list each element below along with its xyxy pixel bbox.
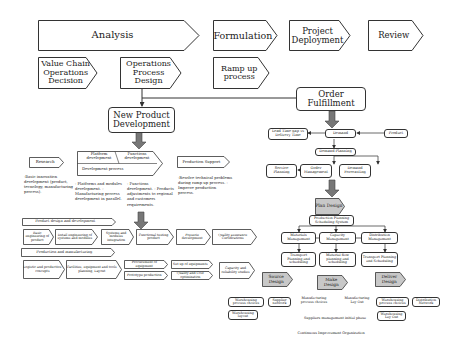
phase-analysis: Analysis — [38, 20, 200, 51]
phase-label: Review — [378, 31, 414, 40]
warehousing-layout-label: Warehousing Lay Out — [378, 313, 405, 320]
decision-label: Ramp up process — [213, 65, 270, 82]
lead-time-label: Lead Time gap vs Delivery Time — [269, 130, 307, 138]
continuous-improvement-text: Continuous Improvement Organization — [296, 331, 366, 335]
distribution-network-box: Distribution Network — [412, 297, 440, 307]
capacity-management-label: Capacity Management — [320, 234, 355, 241]
warehousing-layout-1-box: Warehousing layout — [228, 310, 258, 320]
platform-development-chevron: Platform development Functions developme… — [77, 151, 163, 176]
transport-planning-label: Transport Planning and Scheduling — [362, 256, 397, 263]
production-step-3: Procurement of equipment — [124, 260, 168, 269]
design-step-5: Preserie development — [176, 229, 211, 245]
demand-label: Demand — [333, 132, 348, 136]
functions-notes: - Functions development. - Products adju… — [127, 181, 174, 207]
production-header-label: Production and manufacturing — [36, 251, 99, 255]
design-step-label: Preserie development — [176, 234, 211, 241]
warehousing-process-choices-label: Warehousing process choices — [377, 299, 408, 306]
product-box: Product — [384, 129, 408, 138]
product-design-header: Product design and development — [22, 218, 116, 226]
design-step-6: Quality assurance Certifications — [212, 229, 257, 245]
production-step-label: Procurement of equipment — [124, 261, 168, 268]
capacity-management-box: Capacity Management — [319, 232, 356, 244]
research-chevron: Research — [29, 157, 64, 168]
material-flow-box: Material flow planning and scheduling — [319, 252, 356, 267]
make-design-chevron: Make Design — [317, 275, 348, 290]
production-step-2: Facilities, equipment and tools planning… — [66, 260, 122, 279]
design-step-label: Functional testing product — [136, 234, 174, 241]
distribution-network-label: Distribution Network — [413, 299, 439, 306]
decision-operations-process-design: Operations Process Design — [120, 57, 182, 89]
ofp-title: Order Fulfillment — [297, 90, 365, 108]
pps-box: Production Planning Scheduling System — [309, 215, 354, 226]
material-flow-label: Material flow planning and scheduling — [320, 254, 355, 265]
production-support-label: Production Support — [182, 160, 224, 164]
manufacturing-layout-text: Manufacturing Lay Out — [344, 297, 370, 305]
demand-planning-label: Demand Planning — [319, 150, 351, 154]
phase-label: Formulation — [213, 31, 277, 41]
decision-ramp-up: Ramp up process — [213, 57, 270, 89]
order-fulfillment-box: Order Fulfillment — [296, 87, 366, 111]
materials-management-label: Materials Management — [282, 234, 315, 241]
decision-value-chain: Value Chain Operations Decision — [38, 57, 98, 89]
design-step-1: Basic engineering of product — [23, 229, 54, 245]
supplier-network-box: Supplier network — [268, 297, 291, 307]
production-header: Production and manufacturing — [21, 248, 115, 257]
service-planning-box: Service Planning — [266, 164, 297, 178]
research-notes: -Basic innovation development (product, … — [24, 174, 74, 195]
product-label: Product — [389, 132, 403, 136]
production-step-label: Prototype production — [127, 274, 165, 277]
production-step-label: Capacity and reliability studies — [219, 267, 255, 274]
research-label: Research — [36, 160, 58, 164]
functions-development-label: Functions development — [121, 152, 153, 160]
design-step-3: Systems and modules integration — [101, 229, 134, 245]
distribution-management-label: Distribution Management — [362, 234, 397, 241]
platform-development-label: Platform development — [83, 152, 115, 160]
order-management-label: Order Management — [301, 167, 331, 175]
product-design-header-label: Product design and development — [35, 220, 103, 224]
service-planning-label: Service Planning — [267, 167, 296, 175]
deliver-design-chevron: Deliver Design — [375, 272, 406, 287]
production-support-notes: -Resolve technical problems during ramp … — [178, 175, 233, 196]
decision-label: Value Chain Operations Decision — [38, 60, 98, 85]
source-design-chevron: Source Design — [262, 272, 293, 287]
transport-planning-2-box: Transport Planning and Scheduling — [361, 252, 398, 267]
production-step-7: Capacity and reliability studies — [219, 262, 255, 279]
demand-forecasting-label: Demand Forecasting — [340, 167, 370, 175]
phase-label: Project Deployment — [289, 27, 351, 45]
materials-management-box: Materials Management — [281, 232, 316, 244]
transport-planning-1-box: Transport Planning and scheduling — [281, 252, 316, 267]
design-step-4: Functional testing product — [136, 229, 174, 245]
plan-design-label: Plan Design — [315, 204, 345, 209]
source-design-label: Source Design — [262, 275, 293, 284]
development-process-label: Development process — [82, 166, 142, 171]
production-step-label: Logistic and productive concepts — [23, 266, 65, 273]
phase-review: Review — [368, 20, 424, 51]
design-step-2: Detail engineering of systems and module… — [55, 229, 98, 245]
decision-label: Operations Process Design — [120, 60, 182, 85]
transport-planning-label: Transport Planning and scheduling — [282, 254, 315, 265]
warehousing-process-choices-label: Warehousing process choices — [229, 299, 263, 306]
warehousing-process-choices-1-box: Warehousing process choices — [228, 297, 264, 307]
new-product-development-box: New Product Development — [108, 107, 175, 133]
demand-box: Demand — [325, 129, 356, 138]
warehousing-layout-2-box: Warehousing Lay Out — [377, 311, 406, 321]
npd-title: New Product Development — [109, 111, 174, 129]
platform-notes: - Platforms and modules development. - M… — [75, 181, 125, 202]
production-step-label: Facilities, equipment and tools planning… — [66, 266, 122, 273]
production-step-label: Quality and Cost optimization — [171, 272, 213, 279]
order-management-box: Order Management — [300, 164, 332, 178]
design-step-label: Quality assurance Certifications — [212, 234, 257, 241]
plan-design-chevron: Plan Design — [315, 198, 345, 215]
suppliers-management-text: Suppliers management initial phase — [300, 316, 370, 320]
production-step-1: Logistic and productive concepts — [23, 260, 65, 279]
production-step-5: Set up of equipments — [171, 260, 213, 269]
warehousing-layout-label: Warehousing layout — [229, 312, 257, 319]
production-support-chevron: Production Support — [177, 156, 230, 168]
demand-planning-box: Demand Planning — [315, 148, 356, 156]
supplier-network-label: Supplier network — [269, 299, 290, 306]
make-design-label: Make Design — [317, 278, 348, 287]
phase-project-deployment: Project Deployment — [289, 20, 351, 51]
demand-forecasting-box: Demand Forecasting — [339, 164, 371, 178]
production-step-label: Set up of equipments — [173, 263, 211, 266]
design-step-label: Detail engineering of systems and module… — [55, 234, 98, 241]
